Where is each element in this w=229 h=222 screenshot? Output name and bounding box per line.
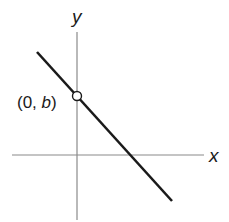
line bbox=[37, 52, 172, 201]
point-label-close: ) bbox=[51, 93, 57, 112]
y-axis-label: y bbox=[70, 6, 83, 27]
point-label: (0, b) bbox=[17, 93, 57, 112]
coordinate-diagram: y x (0, b) bbox=[0, 0, 229, 222]
y-intercept-point bbox=[73, 92, 82, 101]
point-label-open: (0, bbox=[17, 93, 42, 112]
x-axis-label: x bbox=[208, 145, 220, 166]
point-label-var: b bbox=[42, 93, 51, 112]
